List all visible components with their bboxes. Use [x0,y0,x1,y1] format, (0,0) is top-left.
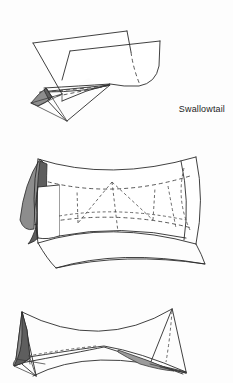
elliptic-umbilic-diagram [0,128,233,294]
caption-swallowtail: Swallowtail [179,104,225,115]
hyperbolic-umbilic-diagram [0,294,233,383]
lower-right-hidden [166,311,172,362]
lower-left-cusp-line-a [14,366,36,376]
elliptic-lower-flap [38,243,205,268]
figure-swallowtail: Swallowtail [0,0,233,128]
figure-sheet: Swallowtail [0,0,233,383]
figure-elliptic-umbilic: Elliptic Umbilic [0,128,233,294]
lower-top-curve [22,309,172,331]
swallowtail-tail-wing [40,85,110,121]
figure-hyperbolic-umbilic [0,294,233,383]
elliptic-front-sheet-face [38,185,59,238]
